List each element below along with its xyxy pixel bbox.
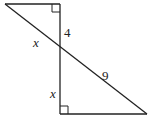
label-upper-hypotenuse: x bbox=[33, 36, 39, 49]
transversal-segment bbox=[5, 4, 147, 114]
geometry-figure bbox=[0, 0, 153, 117]
label-bottom-vertical: x bbox=[50, 87, 56, 100]
right-angle-marker-bottom bbox=[60, 106, 68, 114]
label-top-vertical: 4 bbox=[64, 26, 71, 39]
label-lower-hypotenuse: 9 bbox=[102, 69, 109, 82]
right-angle-marker-top bbox=[52, 4, 60, 12]
